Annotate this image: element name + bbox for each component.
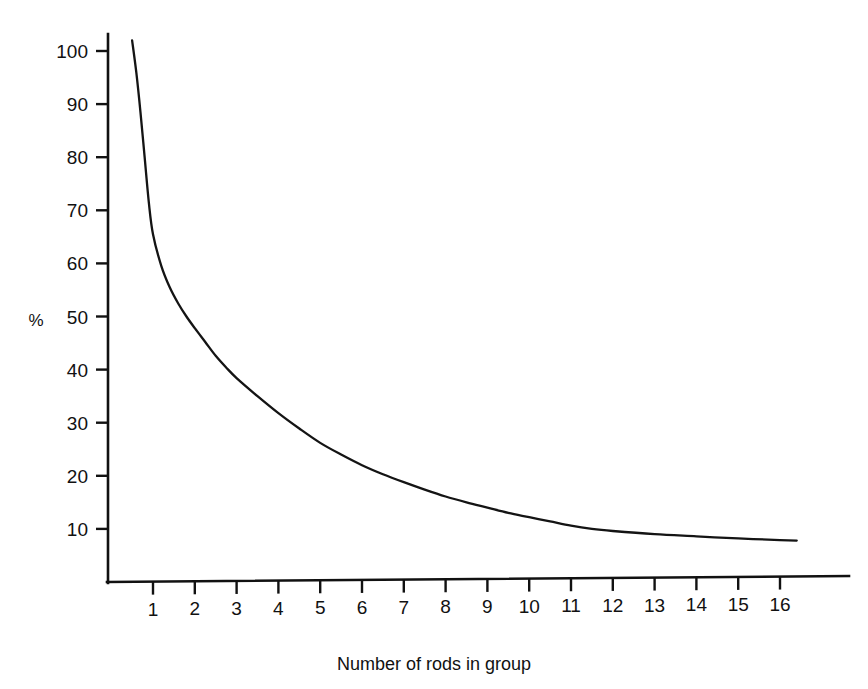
x-tick-label: 16	[769, 594, 790, 615]
x-tick-label: 3	[231, 598, 242, 619]
x-tick-label: 2	[190, 598, 201, 619]
y-axis: 102030405060708090100	[56, 34, 108, 583]
y-tick-label: 60	[67, 253, 88, 274]
x-tick-label: 14	[686, 594, 708, 615]
x-tick-label: 7	[399, 597, 410, 618]
y-tick-label: 90	[67, 94, 88, 115]
x-tick-label: 4	[273, 598, 284, 619]
y-axis-tick-labels: 102030405060708090100	[56, 41, 88, 540]
y-tick-label: 70	[67, 200, 88, 221]
y-tick-label: 80	[67, 147, 88, 168]
x-tick-label: 13	[644, 595, 665, 616]
x-tick-label: 15	[728, 594, 749, 615]
x-tick-label: 8	[440, 596, 451, 617]
x-tick-label: 6	[357, 597, 368, 618]
y-tick-label: 50	[67, 307, 88, 328]
x-axis-tick-labels: 12345678910111213141516	[148, 594, 791, 620]
x-tick-label: 11	[561, 595, 581, 616]
chart-figure: 102030405060708090100 123456789101112131…	[0, 0, 868, 689]
x-tick-label: 1	[148, 599, 159, 620]
y-tick-label: 10	[67, 519, 88, 540]
x-axis: 12345678910111213141516	[107, 576, 849, 620]
y-axis-title: %	[28, 311, 43, 330]
y-tick-label: 20	[67, 466, 88, 487]
y-axis-ticks	[96, 51, 108, 529]
x-tick-label: 12	[602, 595, 623, 616]
data-series-line	[132, 40, 797, 540]
x-tick-label: 10	[519, 596, 540, 617]
y-tick-label: 40	[67, 360, 88, 381]
y-tick-label: 30	[67, 413, 88, 434]
y-tick-label: 100	[56, 41, 88, 62]
x-tick-label: 9	[482, 596, 493, 617]
x-tick-label: 5	[315, 597, 326, 618]
x-axis-title: Number of rods in group	[337, 654, 531, 674]
line-chart-plot: 102030405060708090100 123456789101112131…	[0, 0, 868, 689]
